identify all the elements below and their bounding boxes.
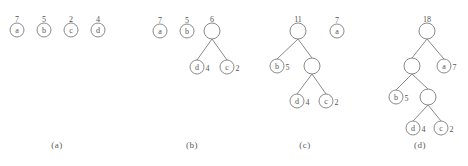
node-internal-6 xyxy=(420,89,436,105)
node-weight-label: 4 xyxy=(96,15,100,24)
node-a: a7 xyxy=(330,16,344,39)
node-a: a7 xyxy=(437,59,457,73)
node-weight-label: 4 xyxy=(422,125,426,134)
node-internal-6 xyxy=(304,58,320,74)
node-weight-label: 5 xyxy=(42,15,46,24)
node-internal-18: 18 xyxy=(419,15,435,40)
panel-a: a7b5c2d4(a) xyxy=(10,15,105,151)
node-letter-label: d xyxy=(96,26,100,35)
node-letter-label: d xyxy=(195,63,199,72)
node-c: c2 xyxy=(434,121,454,135)
node-letter-label: c xyxy=(439,124,443,133)
edge-6-c xyxy=(428,105,441,121)
node-circle xyxy=(420,89,436,105)
node-d: d4 xyxy=(290,94,310,108)
node-weight-label: 7 xyxy=(453,63,457,72)
node-a: a7 xyxy=(153,16,167,39)
edge-18-11 xyxy=(412,39,427,58)
huffman-figure: a7b5c2d4(a)a7b56d4c2(b)11a7b5d4c2(c)18a7… xyxy=(0,0,468,166)
node-letter-label: b xyxy=(275,62,279,71)
node-letter-label: d xyxy=(295,97,299,106)
node-circle xyxy=(304,58,320,74)
node-weight-label: 2 xyxy=(335,98,339,107)
node-b: b5 xyxy=(389,90,409,104)
node-d: d4 xyxy=(406,121,426,135)
node-a: a7 xyxy=(10,15,24,38)
panel-caption-c: (c) xyxy=(299,140,311,150)
panel-b: a7b56d4c2(b) xyxy=(153,15,240,151)
node-letter-label: a xyxy=(15,26,19,35)
node-circle xyxy=(404,58,420,74)
node-weight-label: 5 xyxy=(286,63,290,72)
panel-c: 11a7b5d4c2(c) xyxy=(270,15,344,151)
node-letter-label: c xyxy=(225,63,229,72)
edge-11-6 xyxy=(298,39,312,58)
edge-11-6 xyxy=(412,74,428,89)
node-internal-6: 6 xyxy=(204,15,220,40)
node-d: d4 xyxy=(91,15,105,38)
node-letter-label: b xyxy=(394,93,398,102)
edge-11-b xyxy=(396,74,412,90)
edge-18-a xyxy=(427,39,444,59)
node-weight-label: 7 xyxy=(335,16,339,25)
node-weight-label: 2 xyxy=(236,64,240,73)
node-letter-label: b xyxy=(42,26,46,35)
panel-caption-b: (b) xyxy=(186,140,198,150)
node-weight-label: 11 xyxy=(294,15,302,24)
node-weight-label: 5 xyxy=(185,16,189,25)
node-weight-label: 5 xyxy=(405,94,409,103)
node-c: c2 xyxy=(64,15,78,38)
node-c: c2 xyxy=(319,94,339,108)
node-weight-label: 18 xyxy=(423,15,431,24)
node-circle xyxy=(290,23,306,39)
node-circle xyxy=(204,23,220,39)
node-d: d4 xyxy=(190,60,210,74)
node-letter-label: b xyxy=(185,27,189,36)
node-weight-label: 7 xyxy=(158,16,162,25)
node-internal-11 xyxy=(404,58,420,74)
node-weight-label: 2 xyxy=(450,125,454,134)
node-circle xyxy=(419,23,435,39)
panel-d: 18a7b5d4c2(d) xyxy=(389,15,457,151)
panel-caption-d: (d) xyxy=(414,140,426,150)
node-internal-11: 11 xyxy=(290,15,306,40)
node-letter-label: a xyxy=(442,62,446,71)
node-weight-label: 4 xyxy=(306,98,310,107)
edge-6-d xyxy=(197,39,212,60)
node-b: b5 xyxy=(180,16,194,39)
panel-caption-a: (a) xyxy=(51,140,63,150)
node-weight-label: 2 xyxy=(69,15,73,24)
node-letter-label: a xyxy=(335,27,339,36)
edge-6-c xyxy=(312,74,326,94)
edge-6-d xyxy=(413,105,428,121)
edge-6-d xyxy=(297,74,312,94)
edge-11-b xyxy=(277,39,298,59)
node-c: c2 xyxy=(220,60,240,74)
node-weight-label: 6 xyxy=(210,15,214,24)
figure-canvas: a7b5c2d4(a)a7b56d4c2(b)11a7b5d4c2(c)18a7… xyxy=(0,0,468,166)
node-b: b5 xyxy=(37,15,51,38)
node-letter-label: d xyxy=(411,124,415,133)
node-letter-label: a xyxy=(158,27,162,36)
node-weight-label: 7 xyxy=(15,15,19,24)
node-letter-label: c xyxy=(69,26,73,35)
node-b: b5 xyxy=(270,59,290,73)
node-letter-label: c xyxy=(324,97,328,106)
edge-6-c xyxy=(212,39,227,60)
node-weight-label: 4 xyxy=(206,64,210,73)
